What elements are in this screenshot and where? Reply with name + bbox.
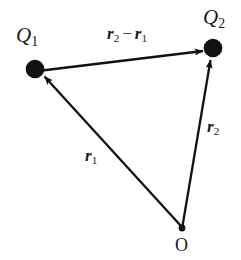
- label-vector-r1-subscript: 1: [92, 154, 98, 166]
- label-vector-r1-symbol: r: [85, 146, 92, 165]
- charge-point-q1: [26, 60, 45, 79]
- label-charge-q1-symbol: Q: [16, 23, 31, 47]
- origin-point: [179, 225, 186, 232]
- label-vector-r1: r1: [85, 147, 97, 166]
- label-vector-r2: r2: [207, 118, 219, 137]
- label-charge-q1: Q1: [16, 25, 38, 49]
- label-vector-r2-subscript: 2: [214, 125, 220, 137]
- label-charge-q1-subscript: 1: [31, 34, 38, 49]
- label-vector-separation-first-symbol: r: [107, 24, 114, 43]
- label-charge-q2: Q2: [203, 7, 225, 31]
- label-vector-separation-operator: −: [119, 24, 135, 43]
- label-vector-separation: r2−r1: [107, 25, 147, 44]
- vector-diagram-figure: Q1 Q2 r2−r1 r2 r1 O: [0, 0, 241, 260]
- label-vector-separation-second-subscript: 1: [141, 32, 147, 44]
- charge-point-q2: [204, 39, 223, 58]
- vector-arrow-r1: [45, 77, 182, 227]
- vector-arrow-r2-minus-r1: [42, 51, 203, 71]
- label-vector-r2-symbol: r: [207, 117, 214, 136]
- label-charge-q2-subscript: 2: [218, 16, 225, 31]
- vector-arrow-r2: [183, 60, 211, 226]
- label-charge-q2-symbol: Q: [203, 5, 218, 29]
- label-origin: O: [175, 236, 188, 254]
